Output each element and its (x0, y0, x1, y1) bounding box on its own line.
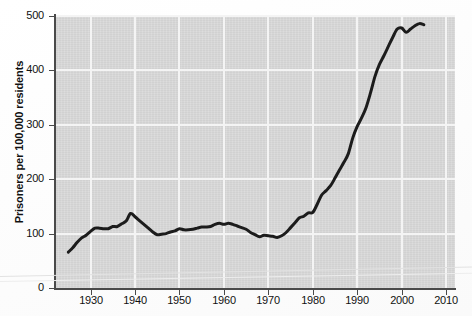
y-axis-line (54, 14, 56, 290)
x-axis-tick-label: 2010 (422, 294, 470, 306)
y-axis-tick-label: 0 (0, 281, 44, 293)
y-axis-tick-label: 500 (0, 9, 44, 21)
plot-area (55, 16, 455, 288)
x-axis-tick-label: 1980 (289, 294, 337, 306)
chart-figure: 0100200300400500 19301940195019601970198… (0, 0, 472, 316)
x-axis-tick-label: 2000 (378, 294, 426, 306)
y-axis-tick (49, 234, 54, 235)
x-axis-tick-label: 1940 (111, 294, 159, 306)
x-axis-tick-label: 1990 (333, 294, 381, 306)
x-axis-tick-label: 1970 (244, 294, 292, 306)
x-axis-line (54, 288, 456, 290)
y-axis-tick (49, 70, 54, 71)
y-axis-tick (49, 288, 54, 289)
x-axis-tick-label: 1960 (200, 294, 248, 306)
x-axis-tick-label: 1950 (155, 294, 203, 306)
data-series-layer (55, 16, 455, 288)
x-axis-tick-label: 1930 (67, 294, 115, 306)
prisoner-rate-line (68, 24, 424, 253)
y-axis-tick (49, 125, 54, 126)
y-axis-title: Prisoners per 100,000 residents (13, 27, 25, 257)
y-axis-tick (49, 179, 54, 180)
y-axis-tick (49, 16, 54, 17)
